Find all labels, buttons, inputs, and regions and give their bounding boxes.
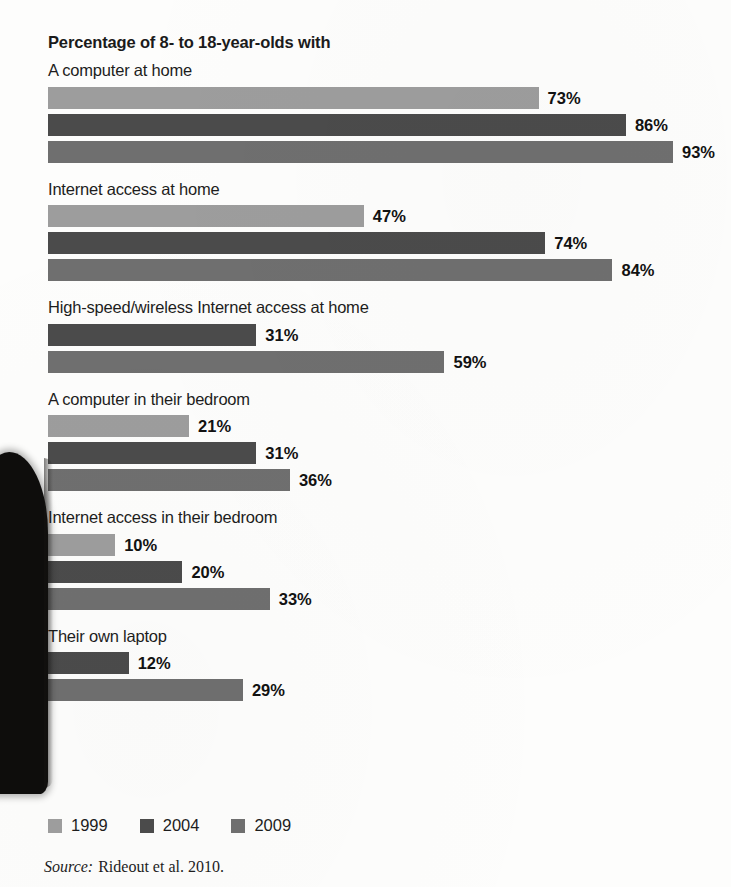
bar-row: 74% — [0, 232, 731, 254]
figure-number: Figure 15-1 — [22, 0, 114, 2]
source-line: Source:Rideout et al. 2010. — [44, 858, 224, 876]
bar-row: 29% — [0, 679, 731, 701]
bar-value-label: 31% — [265, 326, 298, 345]
legend-label: 1999 — [71, 816, 108, 835]
group-spacer — [0, 168, 731, 181]
bar-row: 33% — [0, 588, 731, 610]
bar-value-label: 74% — [554, 234, 587, 253]
chart-legend: 199920042009 — [48, 816, 323, 835]
bar-value-label: 12% — [138, 654, 171, 673]
bar-value-label: 59% — [453, 353, 486, 372]
bar-group: High-speed/wireless Internet access at h… — [0, 299, 731, 373]
bar-value-label: 21% — [198, 417, 231, 436]
bar-group: Internet access at home47%74%84% — [0, 181, 731, 282]
bar-row: 59% — [0, 351, 731, 373]
bar-2009 — [48, 351, 444, 373]
photo-bleed-decoration — [0, 452, 48, 794]
bar-group: A computer at home73%86%93% — [0, 62, 731, 163]
bar-group: Their own laptop12%29% — [0, 628, 731, 702]
bar-2009 — [48, 259, 612, 281]
bar-value-label: 47% — [373, 207, 406, 226]
bar-value-label: 31% — [265, 444, 298, 463]
bar-group-label: High-speed/wireless Internet access at h… — [48, 299, 731, 324]
chart-subtitle: Percentage of 8- to 18-year-olds with — [48, 33, 330, 52]
bar-row: 31% — [0, 442, 731, 464]
bar-1999 — [48, 205, 364, 227]
bar-row: 73% — [0, 87, 731, 109]
bar-row: 31% — [0, 324, 731, 346]
bar-value-label: 86% — [635, 116, 668, 135]
bar-group-label: Internet access at home — [48, 181, 731, 206]
legend-swatch-1999 — [48, 819, 62, 833]
group-spacer — [0, 615, 731, 628]
bar-2009 — [48, 141, 673, 163]
bar-1999 — [48, 534, 115, 556]
legend-swatch-2004 — [140, 819, 154, 833]
bar-2004 — [48, 442, 256, 464]
legend-label: 2004 — [163, 816, 200, 835]
bar-2004 — [48, 561, 182, 583]
bar-row: 12% — [0, 652, 731, 674]
bar-2004 — [48, 324, 256, 346]
source-label: Source: — [44, 858, 93, 875]
source-text: Rideout et al. 2010. — [98, 858, 224, 875]
bar-2004 — [48, 232, 545, 254]
bar-row: 84% — [0, 259, 731, 281]
bar-value-label: 36% — [299, 471, 332, 490]
bar-group: Internet access in their bedroom10%20%33… — [0, 509, 731, 610]
legend-swatch-2009 — [231, 819, 245, 833]
bar-row: 20% — [0, 561, 731, 583]
bar-groups-container: A computer at home73%86%93%Internet acce… — [0, 62, 731, 706]
bar-row: 86% — [0, 114, 731, 136]
bar-2009 — [48, 679, 243, 701]
bar-row: 10% — [0, 534, 731, 556]
legend-item-1999: 1999 — [48, 816, 108, 835]
bar-2009 — [48, 469, 290, 491]
bar-value-label: 20% — [191, 563, 224, 582]
figure-name: The New Normal: Internet at Home — [127, 0, 464, 3]
bar-value-label: 33% — [279, 590, 312, 609]
bar-group-label: A computer at home — [48, 62, 731, 87]
legend-item-2009: 2009 — [231, 816, 291, 835]
bar-value-label: 73% — [548, 89, 581, 108]
group-spacer — [0, 378, 731, 391]
bar-2009 — [48, 588, 270, 610]
bar-1999 — [48, 87, 539, 109]
bar-row: 21% — [0, 415, 731, 437]
bar-row: 93% — [0, 141, 731, 163]
legend-label: 2009 — [254, 816, 291, 835]
bar-row: 36% — [0, 469, 731, 491]
bar-group-label: Internet access in their bedroom — [48, 509, 731, 534]
bar-2004 — [48, 652, 129, 674]
bar-group: A computer in their bedroom21%31%36% — [0, 391, 731, 492]
bar-value-label: 84% — [621, 261, 654, 280]
bar-group-label: Their own laptop — [48, 628, 731, 653]
bar-2004 — [48, 114, 626, 136]
legend-item-2004: 2004 — [140, 816, 200, 835]
bar-value-label: 93% — [682, 143, 715, 162]
bar-value-label: 29% — [252, 681, 285, 700]
bar-1999 — [48, 415, 189, 437]
bar-value-label: 10% — [124, 536, 157, 555]
figure-page: Figure 15-1The New Normal: Internet at H… — [0, 0, 731, 887]
bar-group-label: A computer in their bedroom — [48, 391, 731, 416]
figure-title: Figure 15-1The New Normal: Internet at H… — [0, 0, 731, 14]
bar-row: 47% — [0, 205, 731, 227]
